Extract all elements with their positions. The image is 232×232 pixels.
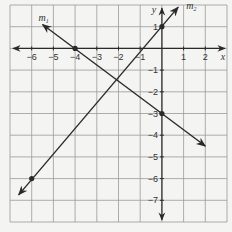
x-tick-label: −6 [27,52,37,62]
line-label-subscript: 1 [46,18,49,24]
point-m2 [159,24,164,29]
axes [13,8,225,220]
x-axis-label: x [220,51,226,62]
y-tick-label: −1 [148,65,158,75]
line-label-subscript: 2 [193,6,196,12]
y-axis-label: y [151,4,157,15]
x-tick-label: −4 [70,52,80,62]
point-m1 [73,46,78,51]
y-tick-label: 1 [153,22,158,32]
point-m2 [29,176,34,181]
line-m1 [43,25,206,147]
coordinate-graph: −6−5−4−3−2−1121−1−2−3−4−5−6−7xy m1m2 [0,0,232,232]
line-label-m2: m2 [186,0,196,12]
x-tick-label: −3 [92,52,102,62]
y-tick-label: −7 [148,195,158,205]
y-tick-label: −6 [148,174,158,184]
x-tick-label: 2 [203,52,208,62]
x-tick-label: −2 [113,52,123,62]
x-tick-label: −1 [135,52,145,62]
x-tick-label: 1 [181,52,186,62]
point-m1 [159,111,164,116]
line-label-m1: m1 [39,12,49,24]
y-tick-label: −4 [148,130,158,140]
line-m2 [19,7,178,195]
x-tick-label: −5 [48,52,58,62]
grid [10,5,227,222]
y-tick-label: −2 [148,87,158,97]
y-tick-label: −5 [148,152,158,162]
lines: m1m2 [19,0,206,195]
